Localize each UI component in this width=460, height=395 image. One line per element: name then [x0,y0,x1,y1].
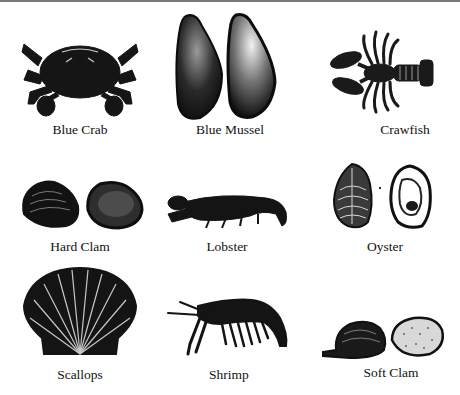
soft-clam-icon [0,0,460,395]
label-soft-clam: Soft Clam [321,365,460,381]
